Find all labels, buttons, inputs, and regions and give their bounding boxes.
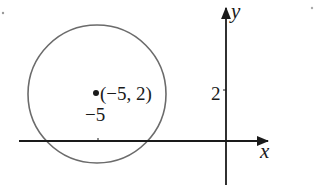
scan-artifact-dot (311, 7, 313, 9)
x-axis-label: x (259, 139, 270, 163)
y-axis-label: y (229, 0, 241, 23)
x-tick-label: −5 (85, 104, 105, 125)
center-point-label: (−5, 2) (100, 83, 152, 105)
scan-artifact-dot (2, 12, 4, 14)
y-tick-label: 2 (211, 83, 221, 104)
center-point (93, 90, 99, 96)
coordinate-plane-diagram: (−5, 2) −5 2 x y (0, 0, 314, 185)
